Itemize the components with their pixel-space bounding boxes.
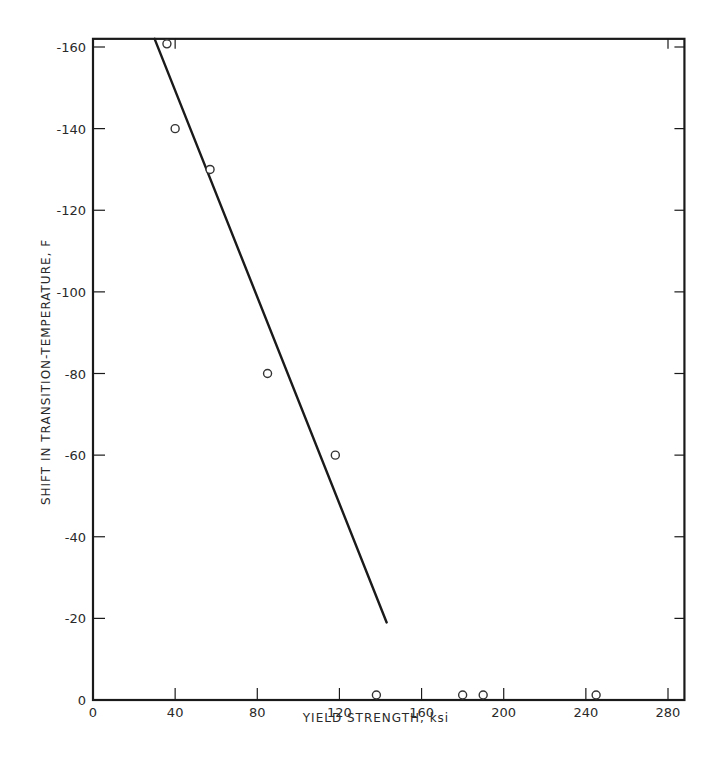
x-axis-title: YIELD STRENGTH, ksi <box>302 711 449 725</box>
plot-frame <box>93 39 684 700</box>
plot-border <box>93 39 684 700</box>
y-tick-label: -60 <box>65 448 86 463</box>
data-point-marker <box>479 691 487 699</box>
data-point-marker <box>592 691 600 699</box>
y-tick-label: -120 <box>56 203 86 218</box>
data-point-marker <box>206 165 214 173</box>
x-tick-label: 280 <box>656 705 681 720</box>
x-tick-label: 0 <box>89 705 97 720</box>
trend-line <box>155 39 387 623</box>
data-point-marker <box>331 451 339 459</box>
y-tick-label: -80 <box>65 367 86 382</box>
y-tick-label: 0 <box>78 693 86 708</box>
x-tick-label: 80 <box>249 705 266 720</box>
data-points <box>163 40 600 699</box>
data-point-marker <box>171 125 179 133</box>
y-axis-ticks: 0-20-40-60-80-100-120-140-160 <box>56 40 684 708</box>
y-tick-label: -160 <box>56 40 86 55</box>
y-tick-label: -100 <box>56 285 86 300</box>
trend-line-segment <box>155 39 387 623</box>
x-tick-label: 200 <box>491 705 516 720</box>
x-tick-label: 240 <box>573 705 598 720</box>
data-point-marker <box>264 370 272 378</box>
data-point-marker <box>372 691 380 699</box>
y-tick-label: -40 <box>65 530 86 545</box>
chart: 04080120160200240280 0-20-40-60-80-100-1… <box>0 0 718 765</box>
data-point-marker <box>459 691 467 699</box>
x-tick-label: 40 <box>167 705 184 720</box>
y-tick-label: -140 <box>56 122 86 137</box>
data-point-marker <box>163 40 171 48</box>
y-tick-label: -20 <box>65 611 86 626</box>
y-axis-title: SHIFT IN TRANSITION-TEMPERATURE, F <box>39 239 53 505</box>
